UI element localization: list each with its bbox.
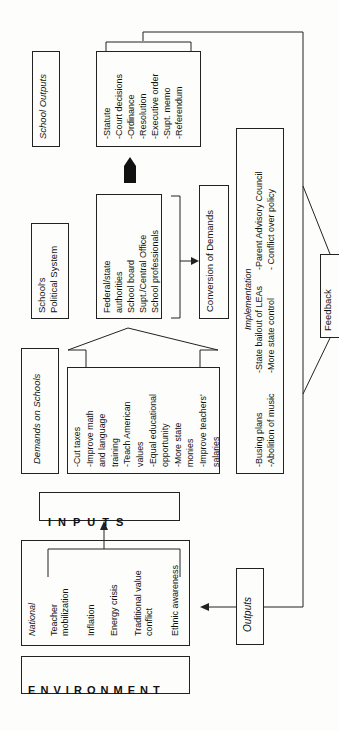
feedback-label: Feedback bbox=[323, 289, 334, 331]
political-system-members: Federal/state authorities School board S… bbox=[101, 230, 161, 313]
national-box bbox=[21, 540, 190, 646]
implementation-col2: -State bailout of LEAs -More state contr… bbox=[253, 286, 277, 373]
outputs-label: Outputs bbox=[242, 597, 253, 632]
environment-label: E N V I R O N M E N T bbox=[28, 684, 161, 696]
inputs-label: I N P U T S bbox=[48, 516, 125, 528]
national-item-5: Ethnic awareness bbox=[170, 565, 180, 636]
conversion-of-demands-label: Conversion of Demands bbox=[205, 210, 216, 312]
school-outputs-list: -Statute -Court decisions -Ordinance -Re… bbox=[101, 73, 185, 139]
demands-title: Demands on Schools bbox=[32, 374, 43, 464]
implementation-col3: -Parent Advisory Council - Conflict over… bbox=[253, 171, 277, 270]
national-item-1: Teacher mobilization bbox=[49, 588, 71, 636]
implementation-col1: -Busing plans -Abolition of music bbox=[253, 393, 277, 467]
demands-list: -Cut taxes -Improve math and language tr… bbox=[71, 394, 222, 467]
school-outputs-title: School Outputs bbox=[38, 74, 49, 139]
political-systems-diagram: School Outputs -Statute -Court decisions… bbox=[0, 0, 339, 731]
national-item-4: Traditional value conflict bbox=[133, 570, 155, 636]
national-item-2: Inflation bbox=[86, 604, 96, 636]
national-heading: National bbox=[27, 603, 37, 636]
implementation-title: Implementation bbox=[243, 268, 253, 330]
political-system-title: School's Political System bbox=[36, 246, 60, 313]
national-item-3: Energy crisis bbox=[109, 584, 119, 636]
